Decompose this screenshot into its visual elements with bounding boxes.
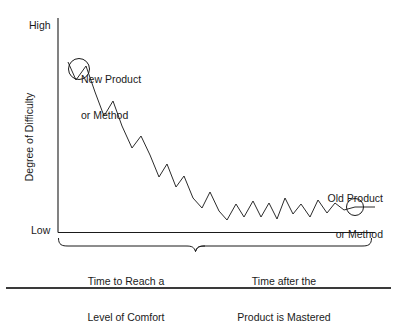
bracket-time-to-comfort	[59, 238, 206, 252]
annotation-new-product-line2: or Method	[81, 109, 141, 121]
bracket-label-1-line1: Time to Reach a	[60, 275, 192, 287]
annotation-new-product: New Product or Method	[81, 49, 141, 145]
annotation-old-product-line1: Old Product	[303, 192, 383, 204]
bracket-label-2-line1: Time after the	[218, 275, 350, 287]
bracket-label-time-to-comfort: Time to Reach a Level of Comfort	[60, 251, 192, 325]
y-axis-tick-low: Low	[31, 224, 50, 236]
annotation-old-product-line2: or Method	[303, 228, 383, 240]
bracket-label-1-line2: Level of Comfort	[60, 311, 192, 323]
bracket-label-2-line2: Product is Mastered	[218, 311, 350, 323]
y-axis-tick-high: High	[29, 19, 51, 31]
annotation-old-product: Old Product or Method	[303, 168, 383, 264]
bracket-label-time-after-mastered: Time after the Product is Mastered	[218, 251, 350, 325]
annotation-new-product-line1: New Product	[81, 73, 141, 85]
y-axis-title: Degree of Difficulty	[23, 67, 35, 207]
